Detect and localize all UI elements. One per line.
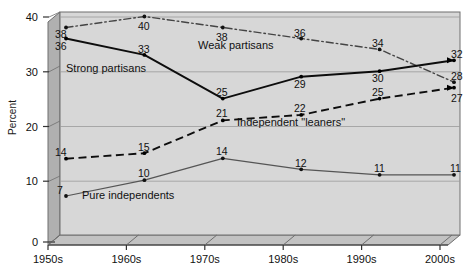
x-tick-label-1990s: 1990s [335, 253, 389, 265]
x-tick-label-1960s: 1960s [99, 253, 153, 265]
y-tick-label-40: 40 [14, 11, 38, 23]
y-tick-label-10: 10 [14, 175, 38, 187]
value-leaners-2000s: 27 [451, 92, 463, 104]
value-pure-2000s: 11 [450, 162, 461, 174]
plot-bottom-face [48, 235, 460, 245]
value-weak-1980s: 36 [294, 27, 306, 39]
value-strong-1970s: 25 [216, 86, 228, 98]
series-label-independent-leaners: Independent "leaners" [237, 116, 345, 128]
value-pure-1950s: 7 [57, 184, 63, 196]
value-strong-1960s: 33 [138, 43, 150, 55]
value-leaners-1990s: 25 [372, 86, 384, 98]
value-pure-1960s: 10 [138, 167, 150, 179]
value-weak-1990s: 34 [372, 37, 384, 49]
xtick-marks [48, 245, 440, 250]
chart-container: Percent 40 30 20 10 0 1950s 1960s 1970s … [0, 0, 471, 275]
value-strong-2000s: 32 [451, 48, 463, 60]
series-label-pure-independents: Pure independents [82, 189, 174, 201]
value-pure-1980s: 12 [295, 157, 307, 169]
value-strong-1990s: 30 [372, 72, 384, 84]
x-tick-label-1950s: 1950s [21, 253, 75, 265]
value-pure-1990s: 11 [374, 162, 385, 174]
y-tick-label-0: 0 [14, 236, 38, 248]
value-strong-1980s: 29 [294, 78, 306, 90]
value-leaners-1960s: 15 [138, 141, 150, 153]
value-weak-1970s: 38 [216, 31, 228, 43]
x-tick-label-1980s: 1980s [256, 253, 310, 265]
value-pure-1970s: 14 [216, 145, 228, 157]
x-tick-label-2000s: 2000s [413, 253, 467, 265]
y-tick-label-20: 20 [14, 121, 38, 133]
y-tick-label-30: 30 [14, 66, 38, 78]
value-leaners-1970s: 21 [216, 107, 228, 119]
series-label-strong-partisans: Strong partisans [66, 62, 146, 74]
x-tick-label-1970s: 1970s [178, 253, 232, 265]
value-strong-1950s: 36 [55, 40, 67, 52]
series-label-weak-partisans: Weak partisans [198, 39, 274, 51]
value-leaners-1980s: 22 [294, 102, 306, 114]
value-weak-1960s: 40 [138, 20, 150, 32]
value-leaners-1950s: 14 [55, 146, 67, 158]
value-weak-1950s: 38 [55, 28, 67, 40]
y-axis-title: Percent [7, 83, 18, 153]
value-weak-2000s: 28 [451, 70, 463, 82]
